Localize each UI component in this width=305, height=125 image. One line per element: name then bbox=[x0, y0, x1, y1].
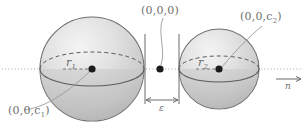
center-point-right bbox=[215, 65, 222, 72]
gap-dimension bbox=[146, 98, 178, 103]
leader-line-origin bbox=[161, 18, 163, 65]
origin-label: (0,0,0) bbox=[141, 5, 179, 16]
sphere-right bbox=[179, 29, 259, 109]
radius-right-label: r2 bbox=[198, 57, 208, 71]
origin-label-text: (0,0,0) bbox=[141, 4, 179, 17]
gap-label: ε bbox=[159, 104, 164, 113]
center-left-label: (0,0,c1) bbox=[8, 105, 50, 119]
normal-vector-label-text: n bbox=[285, 81, 291, 91]
center-right-label-text: (0,0,c bbox=[240, 10, 273, 23]
origin-point bbox=[156, 65, 163, 72]
center-left-label-text: (0,0,c bbox=[8, 104, 41, 117]
radius-right-label-sub: 2 bbox=[203, 63, 208, 71]
center-right-label-close: ) bbox=[277, 10, 282, 23]
radius-left-label-sub: 1 bbox=[71, 63, 76, 71]
radius-left-label: r1 bbox=[66, 57, 76, 71]
sphere-left bbox=[40, 17, 144, 121]
center-left-label-close: ) bbox=[45, 104, 50, 117]
center-point-left bbox=[88, 65, 95, 72]
normal-vector-label: n bbox=[285, 82, 291, 91]
gap-label-text: ε bbox=[159, 103, 164, 113]
figure-canvas: (0,0,0) (0,0,c2) (0,0,c1) r1 r2 ε n bbox=[0, 0, 305, 125]
center-right-label: (0,0,c2) bbox=[240, 11, 282, 25]
